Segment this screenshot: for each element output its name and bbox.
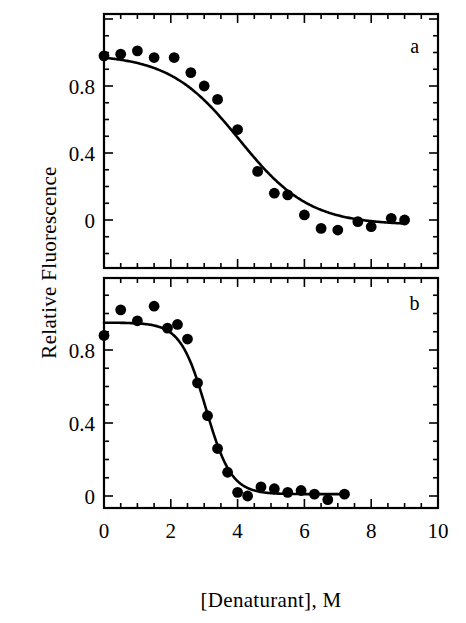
data-point	[256, 481, 267, 492]
data-point	[399, 215, 410, 226]
data-point	[115, 304, 126, 315]
data-point	[149, 52, 160, 63]
data-point	[339, 489, 350, 500]
data-point	[242, 491, 253, 502]
x-tick-label: 10	[428, 519, 449, 543]
figure-panel-container: Relative Fluorescence [Denaturant], M a …	[0, 0, 466, 623]
data-point	[212, 443, 223, 454]
data-point	[169, 52, 180, 63]
data-point	[162, 323, 173, 334]
data-point	[222, 467, 233, 478]
panel-frame	[104, 278, 438, 508]
data-point	[232, 124, 243, 135]
data-point	[252, 166, 263, 177]
panel-a: a	[99, 14, 438, 268]
data-point	[282, 189, 293, 200]
data-point	[316, 223, 327, 234]
data-point	[332, 225, 343, 236]
data-point	[309, 489, 320, 500]
data-point	[115, 49, 126, 60]
data-point	[149, 301, 160, 312]
data-point	[182, 334, 193, 345]
y-tick-label: 0	[85, 209, 96, 233]
data-point	[99, 50, 110, 61]
data-point	[352, 216, 363, 227]
data-point	[212, 94, 223, 105]
data-point	[172, 319, 183, 330]
panel-label: a	[410, 35, 419, 57]
x-tick-label: 0	[99, 519, 110, 543]
x-axis-label: [Denaturant], M	[104, 588, 438, 613]
y-axis-label: Relative Fluorescence	[37, 118, 62, 408]
data-point	[232, 487, 243, 498]
data-point	[99, 330, 110, 341]
data-point	[269, 188, 280, 199]
x-tick-label: 6	[299, 519, 310, 543]
panel-b: b	[99, 278, 438, 508]
data-point	[185, 67, 196, 78]
data-point	[296, 485, 307, 496]
data-point	[299, 210, 310, 221]
x-tick-label: 4	[232, 519, 243, 543]
y-tick-label: 0.4	[69, 142, 96, 166]
data-point	[386, 213, 397, 224]
plot-canvas: a b 024681000.40.800.40.8	[0, 0, 466, 623]
data-point	[322, 494, 333, 505]
fit-curve	[104, 58, 405, 224]
data-point	[366, 221, 377, 232]
y-tick-label: 0.8	[69, 75, 95, 99]
data-point	[202, 410, 213, 421]
panel-frame	[104, 14, 438, 268]
data-point	[132, 315, 143, 326]
y-tick-label: 0.8	[69, 339, 95, 363]
data-point	[192, 377, 203, 388]
data-point	[269, 483, 280, 494]
data-point	[199, 81, 210, 92]
panel-label: b	[410, 292, 420, 314]
x-tick-label: 2	[166, 519, 177, 543]
y-tick-label: 0.4	[69, 412, 96, 436]
data-point	[282, 487, 293, 498]
y-tick-label: 0	[85, 485, 96, 509]
x-tick-label: 8	[366, 519, 377, 543]
data-point	[132, 45, 143, 56]
